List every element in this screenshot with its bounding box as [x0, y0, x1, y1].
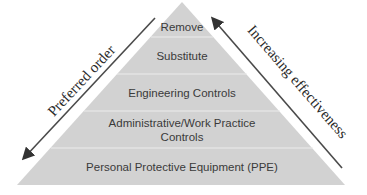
tier-administrative-label-line2: Controls [161, 131, 204, 143]
tier-substitute-label: Substitute [156, 50, 207, 62]
hierarchy-of-controls-diagram: Remove Substitute Engineering Controls A… [0, 0, 367, 195]
tier-remove-label: Remove [161, 21, 204, 33]
tier-engineering-label: Engineering Controls [128, 87, 236, 99]
tier-administrative-label: Administrative/Work Practice [109, 117, 256, 129]
tier-ppe-label: Personal Protective Equipment (PPE) [86, 161, 278, 173]
